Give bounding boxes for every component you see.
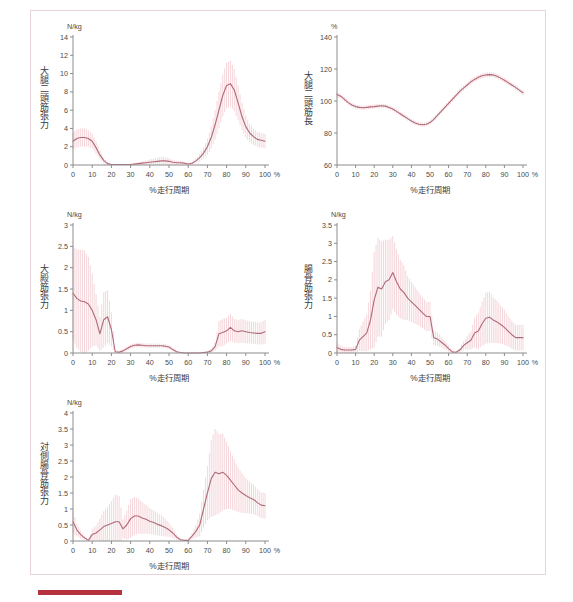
x-axis-unit: % <box>532 170 539 179</box>
y-tick-label: 0.5 <box>322 330 332 339</box>
y-tick-label: 6 <box>64 106 68 115</box>
y-tick-label: 80 <box>324 129 332 138</box>
y-tick-label: 2.5 <box>58 457 68 466</box>
x-tick-label: 30 <box>389 170 397 179</box>
y-tick-label: 1 <box>328 312 332 321</box>
x-tick-label: 50 <box>165 170 173 179</box>
y-tick-label: 3 <box>64 221 68 230</box>
y-tick-label: 3 <box>328 239 332 248</box>
x-tick-label: 20 <box>107 358 115 367</box>
x-tick-label: 10 <box>88 170 96 179</box>
y-tick-label: 2.5 <box>322 257 332 266</box>
x-tick-label: 90 <box>500 170 508 179</box>
y-tick-label: 14 <box>60 33 68 42</box>
y-axis-label: 大腿二頭筋長 <box>303 71 312 125</box>
y-axis-unit: N/kg <box>67 210 82 219</box>
x-tick-label: 10 <box>88 546 96 555</box>
x-tick-label: 90 <box>242 546 250 555</box>
x-tick-label: 0 <box>71 170 75 179</box>
y-tick-label: 4 <box>64 409 68 418</box>
mean-curve <box>337 75 523 125</box>
y-tick-label: 60 <box>324 161 332 170</box>
y-tick-label: 2 <box>64 263 68 272</box>
x-tick-label: 70 <box>203 358 211 367</box>
y-tick-label: 3 <box>64 441 68 450</box>
x-tick-label: 30 <box>127 358 135 367</box>
x-tick-label: 60 <box>445 170 453 179</box>
x-tick-label: 100 <box>517 358 529 367</box>
x-tick-label: 0 <box>71 358 75 367</box>
x-tick-label: 60 <box>184 546 192 555</box>
y-tick-label: 12 <box>60 51 68 60</box>
x-tick-label: 100 <box>259 170 271 179</box>
x-axis-unit: % <box>274 546 281 555</box>
x-tick-label: 20 <box>370 170 378 179</box>
x-tick-label: 20 <box>107 170 115 179</box>
x-axis-unit: % <box>274 358 281 367</box>
y-tick-label: 3.5 <box>58 425 68 434</box>
chart-panel-iliacus-force: N/kg00.511.522.533.501020304050607080901… <box>289 207 547 395</box>
x-tick-label: 40 <box>407 170 415 179</box>
y-tick-label: 1.5 <box>58 285 68 294</box>
y-tick-label: 1 <box>64 306 68 315</box>
chart-svg-gluteus-maximus-force: N/kg00.511.522.530102030405060708090100%… <box>31 207 289 395</box>
y-tick-label: 2 <box>64 473 68 482</box>
x-tick-label: 10 <box>88 358 96 367</box>
x-axis-label: %走行周期 <box>410 185 449 195</box>
x-tick-label: 10 <box>352 170 360 179</box>
y-tick-label: 0 <box>328 349 332 358</box>
x-tick-label: 0 <box>335 358 339 367</box>
x-tick-label: 40 <box>146 170 154 179</box>
y-tick-label: 0.5 <box>58 327 68 336</box>
y-tick-label: 2 <box>328 275 332 284</box>
chart-panel-gluteus-maximus-force: N/kg00.511.522.530102030405060708090100%… <box>31 207 289 395</box>
x-tick-label: 70 <box>203 170 211 179</box>
y-axis-unit: N/kg <box>67 398 82 407</box>
figure-frame: N/kg024681012140102030405060708090100%%走… <box>30 10 546 575</box>
x-axis-unit: % <box>532 358 539 367</box>
y-axis-label: 腸骨筋張力 <box>303 264 312 309</box>
chart-panel-biceps-femoris-force: N/kg024681012140102030405060708090100%%走… <box>31 15 289 207</box>
y-tick-label: 0 <box>64 349 68 358</box>
x-tick-label: 20 <box>107 546 115 555</box>
x-tick-label: 50 <box>426 170 434 179</box>
x-tick-label: 100 <box>259 358 271 367</box>
y-axis-label: 大腿二頭筋張力 <box>39 66 48 129</box>
chart-panel-biceps-femoris-length: %60801001201400102030405060708090100%%走行… <box>289 15 547 207</box>
x-tick-label: 40 <box>146 546 154 555</box>
chart-panel-contralateral-iliacus-force: N/kg00.511.522.533.540102030405060708090… <box>31 395 289 583</box>
y-tick-label: 2 <box>64 142 68 151</box>
x-tick-label: 60 <box>184 358 192 367</box>
x-tick-label: 100 <box>517 170 529 179</box>
x-tick-label: 60 <box>184 170 192 179</box>
x-tick-label: 0 <box>71 546 75 555</box>
x-axis-label: %走行周期 <box>149 185 188 195</box>
x-tick-label: 20 <box>370 358 378 367</box>
chart-svg-iliacus-force: N/kg00.511.522.533.501020304050607080901… <box>289 207 547 395</box>
x-tick-label: 80 <box>482 358 490 367</box>
x-tick-label: 40 <box>146 358 154 367</box>
x-axis-label: %走行周期 <box>410 373 449 383</box>
x-tick-label: 70 <box>203 546 211 555</box>
y-tick-label: 0.5 <box>58 521 68 530</box>
mean-curve <box>73 84 265 165</box>
x-tick-label: 50 <box>165 358 173 367</box>
x-tick-label: 50 <box>426 358 434 367</box>
x-tick-label: 60 <box>445 358 453 367</box>
y-axis-unit: % <box>331 22 338 31</box>
y-axis-unit: N/kg <box>67 22 82 31</box>
x-tick-label: 30 <box>127 170 135 179</box>
x-tick-label: 50 <box>165 546 173 555</box>
y-tick-label: 140 <box>320 33 332 42</box>
error-band <box>73 246 265 353</box>
y-tick-label: 10 <box>60 69 68 78</box>
x-tick-label: 90 <box>242 170 250 179</box>
x-tick-label: 70 <box>463 170 471 179</box>
y-axis-label: 大殿筋張力 <box>39 264 48 309</box>
x-tick-label: 100 <box>259 546 271 555</box>
accent-bar <box>38 590 122 595</box>
x-tick-label: 90 <box>242 358 250 367</box>
x-tick-label: 10 <box>352 358 360 367</box>
y-tick-label: 2.5 <box>58 242 68 251</box>
y-tick-label: 100 <box>320 97 332 106</box>
